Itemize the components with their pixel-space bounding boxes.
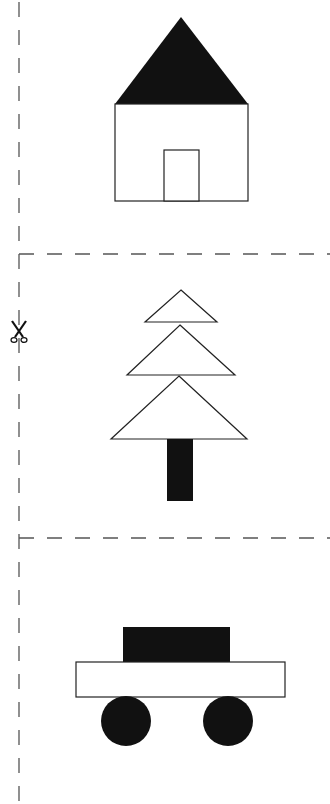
- tree-panel: [111, 290, 247, 501]
- car-front-wheel: [101, 696, 151, 746]
- house-door: [164, 150, 199, 201]
- house-panel: [115, 17, 248, 201]
- car-cabin: [123, 627, 230, 663]
- tree-bottom-tier: [111, 376, 247, 439]
- house-roof: [115, 17, 248, 104]
- tree-trunk: [167, 439, 193, 501]
- tree-middle-tier: [127, 325, 235, 375]
- car-panel: [76, 627, 285, 746]
- tree-top-tier: [145, 290, 217, 322]
- worksheet: [0, 0, 330, 804]
- car-body: [76, 662, 285, 697]
- car-rear-wheel: [203, 696, 253, 746]
